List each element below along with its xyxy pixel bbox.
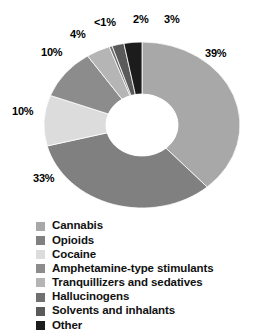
donut-hole: [106, 94, 178, 156]
legend-item[interactable]: Tranquillizers and sedatives: [36, 276, 269, 290]
slice-percent-label: 4%: [70, 28, 86, 40]
legend-item-label: Solvents and inhalants: [52, 305, 175, 317]
slice-percent-label: 10%: [41, 46, 62, 58]
legend-item-label: Cocaine: [52, 249, 96, 261]
donut-chart-svg: [0, 0, 269, 218]
legend-color-swatch: [36, 236, 45, 245]
slice-percent-label: 39%: [205, 47, 226, 59]
slice-percent-label: 10%: [12, 105, 33, 117]
legend-color-swatch: [36, 222, 45, 231]
legend-item[interactable]: Opioids: [36, 233, 269, 247]
legend-color-swatch: [36, 278, 45, 287]
legend-color-swatch: [36, 321, 45, 330]
chart-legend: CannabisOpioidsCocaineAmphetamine-type s…: [36, 219, 269, 333]
legend-color-swatch: [36, 307, 45, 316]
slice-percent-label: 33%: [33, 172, 54, 184]
legend-item[interactable]: Amphetamine-type stimulants: [36, 262, 269, 276]
legend-item-label: Cannabis: [52, 220, 103, 232]
legend-item-label: Tranquillizers and sedatives: [52, 277, 203, 289]
legend-item[interactable]: Other: [36, 318, 269, 332]
legend-item[interactable]: Cocaine: [36, 247, 269, 261]
legend-color-swatch: [36, 293, 45, 302]
slice-percent-label: 2%: [133, 13, 149, 25]
legend-color-swatch: [36, 264, 45, 273]
legend-item-label: Other: [52, 320, 82, 332]
slice-percent-label: 3%: [164, 13, 180, 25]
legend-item-label: Opioids: [52, 235, 94, 247]
legend-item-label: Hallucinogens: [52, 291, 129, 303]
legend-color-swatch: [36, 250, 45, 259]
legend-item[interactable]: Cannabis: [36, 219, 269, 233]
slice-percent-label: <1%: [94, 16, 116, 28]
legend-item[interactable]: Hallucinogens: [36, 290, 269, 304]
chart-plot-area: 39%33%10%10%4%<1%2%3%: [0, 0, 269, 218]
legend-item-label: Amphetamine-type stimulants: [52, 263, 214, 275]
legend-item[interactable]: Solvents and inhalants: [36, 304, 269, 318]
donut-chart-figure: 39%33%10%10%4%<1%2%3% CannabisOpioidsCoc…: [0, 0, 269, 336]
